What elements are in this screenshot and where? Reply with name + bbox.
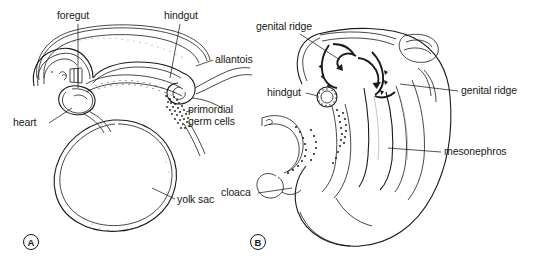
- hindgut-ring: [317, 87, 337, 107]
- leader-mesonephros: [388, 148, 441, 152]
- label-foregut: foregut: [57, 10, 89, 22]
- label-allantois: allantois: [215, 54, 253, 66]
- label-genital-ridge-left: genital ridge: [256, 21, 312, 33]
- genital-ridge-left-shape: [322, 45, 337, 88]
- panel-b-artwork: [257, 28, 458, 246]
- cloaca-shape: [257, 174, 283, 199]
- migration-arrow-right: [358, 58, 378, 87]
- label-heart: heart: [13, 117, 36, 129]
- leader-heart: [49, 108, 72, 123]
- label-genital-ridge-right: genital ridge: [461, 85, 517, 97]
- leader-allantois: [196, 60, 213, 66]
- leader-yolk-sac: [152, 188, 175, 199]
- panel-tag-a: A: [23, 234, 39, 250]
- figure-root: foregut hindgut allantois heart primordi…: [0, 0, 534, 270]
- amnion-stipple: [62, 38, 183, 58]
- figure-artwork: [0, 0, 534, 270]
- leader-cloaca: [258, 188, 292, 193]
- germ-cell-trail-hindgut: [287, 126, 317, 174]
- label-cloaca: cloaca: [221, 187, 251, 199]
- panel-tag-b: B: [250, 234, 266, 250]
- label-hindgut-b: hindgut: [267, 87, 301, 99]
- leader-genital-ridge-left: [300, 34, 340, 60]
- label-mesonephros: mesonephros: [444, 146, 507, 158]
- label-yolk-sac: yolk sac: [177, 194, 214, 206]
- leader-hindgut-b: [306, 93, 318, 96]
- label-hindgut: hindgut: [164, 10, 198, 22]
- label-primordial-germ-cells: primordial germ cells: [188, 104, 235, 127]
